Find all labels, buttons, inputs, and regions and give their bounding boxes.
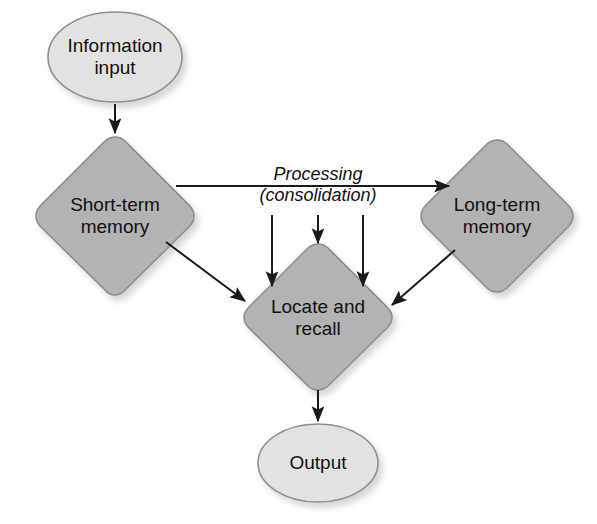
edge-label-processing: Processing (consolidation): [225, 164, 411, 206]
edge-short-term-to-locate: [166, 242, 245, 301]
diagram-canvas: Information input Short-term memory Long…: [0, 0, 597, 524]
diagram-svg: [0, 0, 597, 524]
node-information-input-shape: [48, 12, 182, 102]
edge-long-term-to-locate: [392, 250, 455, 305]
node-short-term-memory-shape: [36, 137, 194, 295]
node-long-term-memory-shape: [421, 140, 573, 292]
node-locate-and-recall-shape: [244, 244, 392, 390]
node-output-shape: [258, 424, 378, 502]
